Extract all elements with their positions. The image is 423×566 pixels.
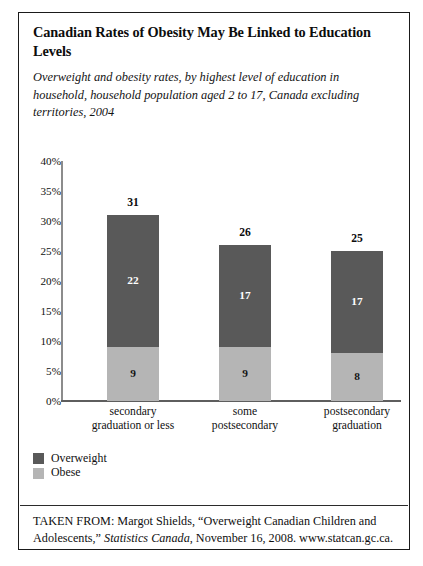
legend-item-label: Overweight [51, 453, 107, 465]
y-axis-tick: 5% [27, 365, 61, 377]
bar-segment-label: 9 [242, 368, 248, 379]
x-axis-category-label: postsecondary graduation [303, 405, 411, 434]
bar-segment-label: 22 [127, 275, 138, 286]
x-axis-category-label: secondary graduation or less [79, 405, 187, 434]
bar-segment-label: 9 [130, 368, 136, 379]
bar-segment-label: 17 [351, 296, 362, 307]
bar-segment-overweight[interactable]: 17 [219, 245, 271, 347]
plot-inner: 31 22 9 26 17 9 [61, 161, 401, 401]
source-publication: Statistics Canada [104, 531, 190, 545]
x-axis-category-line2: graduation [303, 419, 411, 433]
figure-frame: Canadian Rates of Obesity May Be Linked … [18, 12, 410, 550]
x-axis-category-line2: postsecondary [191, 419, 299, 433]
table-row[interactable]: 17 8 [331, 251, 383, 401]
y-axis-tick: 20% [27, 275, 61, 287]
bar-segment-overweight[interactable]: 22 [107, 215, 159, 347]
legend-item-overweight[interactable]: Overweight [33, 453, 107, 465]
y-axis: 40% 35% 30% 25% 20% 15% 10% 5% 0% [19, 149, 61, 401]
divider [20, 505, 408, 506]
figure-subtitle: Overweight and obesity rates, by highest… [33, 69, 391, 122]
x-axis-category-line1: secondary [79, 405, 187, 419]
bar-segment-obese[interactable]: 8 [331, 353, 383, 401]
y-axis-tick: 10% [27, 335, 61, 347]
table-row[interactable]: 17 9 [219, 245, 271, 401]
source-suffix: , November 16, 2008. www.statcan.gc.ca. [190, 531, 393, 545]
bar-segment-label: 8 [354, 371, 360, 382]
x-axis-category-line2: graduation or less [79, 419, 187, 433]
y-axis-tick: 25% [27, 245, 61, 257]
x-axis-category-line1: postsecondary [303, 405, 411, 419]
bar-total-label: 26 [219, 227, 271, 239]
source-note: TAKEN FROM: Margot Shields, “Overweight … [33, 513, 399, 548]
x-axis-category-line1: some [191, 405, 299, 419]
overweight-swatch-icon [33, 453, 44, 464]
x-axis-category-label: some postsecondary [191, 405, 299, 434]
bar-segment-overweight[interactable]: 17 [331, 251, 383, 353]
bar-segment-obese[interactable]: 9 [107, 347, 159, 401]
y-axis-tick: 0% [27, 395, 61, 407]
bar-segment-label: 17 [239, 290, 250, 301]
bar-total-label: 31 [107, 197, 159, 209]
bar-segment-obese[interactable]: 9 [219, 347, 271, 401]
y-axis-tick: 30% [27, 215, 61, 227]
legend-item-label: Obese [51, 467, 80, 479]
page-title: Canadian Rates of Obesity May Be Linked … [33, 23, 383, 61]
obese-swatch-icon [33, 468, 44, 479]
bar-total-label: 25 [331, 233, 383, 245]
y-axis-tick: 35% [27, 185, 61, 197]
legend: Overweight Obese [33, 453, 107, 482]
y-axis-tick: 15% [27, 305, 61, 317]
table-row[interactable]: 22 9 [107, 215, 159, 401]
legend-item-obese[interactable]: Obese [33, 467, 107, 479]
x-axis-labels: secondary graduation or less some postse… [61, 405, 401, 445]
chart-area: 40% 35% 30% 25% 20% 15% 10% 5% 0% 31 22 … [19, 149, 411, 429]
y-axis-tick: 40% [27, 155, 61, 167]
